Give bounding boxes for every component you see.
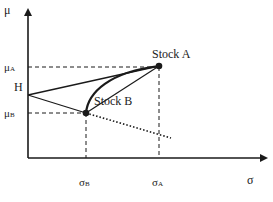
stock-a-point — [156, 63, 163, 70]
line-h-to-b — [28, 95, 86, 113]
stock-b-label: Stock B — [94, 94, 132, 108]
sigma-a-label: σA — [152, 176, 163, 188]
h-label: H — [14, 80, 23, 94]
x-axis-label: σ — [247, 173, 254, 187]
mu-b-label: μB — [4, 107, 15, 119]
diagram-canvas: μ σ μA H μB σB σA Stock A Stock B — [0, 0, 273, 202]
dotted-extension — [86, 113, 171, 138]
stock-b-point — [83, 110, 90, 117]
stock-a-label: Stock A — [152, 47, 191, 61]
y-axis-label: μ — [4, 3, 10, 17]
mu-a-label: μA — [4, 61, 15, 73]
sigma-b-label: σB — [79, 176, 90, 188]
